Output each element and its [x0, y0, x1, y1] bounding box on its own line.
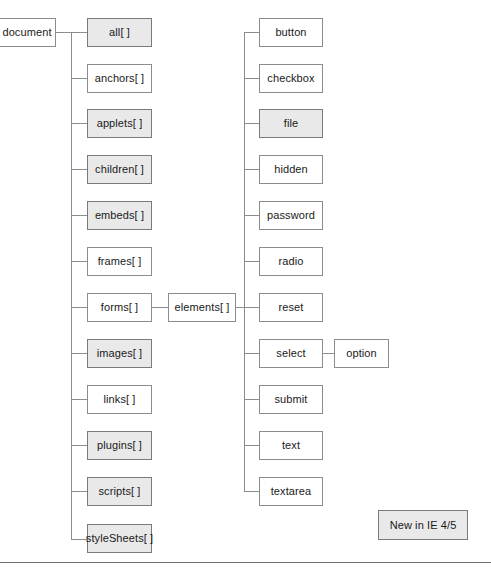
connector-stub-collection-4 [71, 215, 87, 216]
connector-stub-element-6 [244, 307, 259, 308]
legend-label: New in IE 4/5 [390, 520, 457, 531]
node-label: images[ ] [97, 348, 143, 359]
node-images[interactable]: images[ ] [87, 339, 152, 368]
connector-forms-to-elements [152, 307, 168, 308]
connector-stub-element-7 [244, 353, 259, 354]
connector-stub-collection-8 [71, 399, 87, 400]
node-all[interactable]: all[ ] [87, 18, 152, 47]
node-password[interactable]: password [259, 201, 323, 230]
node-forms[interactable]: forms[ ] [87, 293, 152, 322]
connector-stub-collection-11 [71, 539, 87, 540]
connector-select-to-option [322, 353, 334, 354]
node-label: anchors[ ] [95, 73, 144, 84]
node-label: hidden [274, 164, 308, 175]
node-label: file [284, 118, 298, 129]
node-submit[interactable]: submit [259, 385, 323, 414]
connector-stub-element-9 [244, 445, 259, 446]
node-frames[interactable]: frames[ ] [87, 247, 152, 276]
node-label: frames[ ] [98, 256, 142, 267]
node-text[interactable]: text [259, 431, 323, 460]
connector-stub-element-10 [244, 491, 259, 492]
node-label: plugins[ ] [97, 440, 142, 451]
legend-new-in-ie: New in IE 4/5 [378, 510, 468, 540]
node-scripts[interactable]: scripts[ ] [87, 477, 152, 506]
connector-stub-element-2 [244, 123, 259, 124]
node-label: reset [279, 302, 304, 313]
node-label: checkbox [267, 73, 314, 84]
node-label: scripts[ ] [99, 486, 141, 497]
node-select[interactable]: select [259, 339, 323, 368]
node-label: children[ ] [95, 164, 144, 175]
node-label: forms[ ] [101, 302, 138, 313]
node-children[interactable]: children[ ] [87, 155, 152, 184]
node-radio[interactable]: radio [259, 247, 323, 276]
connector-stub-collection-5 [71, 261, 87, 262]
connector-stub-collection-7 [71, 353, 87, 354]
node-label: select [276, 348, 305, 359]
connector-root-stub [55, 32, 72, 33]
connector-stub-element-1 [244, 78, 259, 79]
node-label: radio [279, 256, 304, 267]
connector-stub-element-8 [244, 399, 259, 400]
bottom-divider [0, 562, 491, 563]
node-label: text [282, 440, 300, 451]
connector-stub-collection-1 [71, 78, 87, 79]
node-reset[interactable]: reset [259, 293, 323, 322]
node-embeds[interactable]: embeds[ ] [87, 201, 152, 230]
node-stylesheets[interactable]: styleSheets[ ] [87, 524, 152, 553]
node-label: styleSheets[ ] [86, 533, 153, 544]
diagram-canvas: document all[ ] anchors[ ] applets[ ] ch… [0, 0, 491, 569]
node-label: links[ ] [104, 394, 136, 405]
node-label: elements[ ] [175, 302, 230, 313]
connector-stub-collection-10 [71, 491, 87, 492]
node-plugins[interactable]: plugins[ ] [87, 431, 152, 460]
connector-stub-collection-3 [71, 169, 87, 170]
node-label: password [267, 210, 315, 221]
connector-stub-element-0 [244, 32, 259, 33]
node-option[interactable]: option [334, 339, 389, 368]
node-checkbox[interactable]: checkbox [259, 64, 323, 93]
connector-stub-collection-0 [71, 32, 87, 33]
connector-stub-collection-6 [71, 307, 87, 308]
connector-stub-collection-9 [71, 445, 87, 446]
connector-stub-element-4 [244, 215, 259, 216]
connector-trunk-collections [71, 32, 72, 539]
node-label: submit [275, 394, 308, 405]
node-label: document [2, 27, 51, 38]
node-label: applets[ ] [97, 118, 143, 129]
connector-stub-element-3 [244, 169, 259, 170]
node-elements[interactable]: elements[ ] [168, 293, 236, 322]
node-label: option [346, 348, 377, 359]
node-document[interactable]: document [0, 18, 56, 47]
node-label: textarea [271, 486, 312, 497]
node-file[interactable]: file [259, 109, 323, 138]
node-label: all[ ] [109, 27, 130, 38]
connector-stub-element-5 [244, 261, 259, 262]
node-links[interactable]: links[ ] [87, 385, 152, 414]
node-label: button [275, 27, 306, 38]
connector-stub-collection-2 [71, 123, 87, 124]
node-applets[interactable]: applets[ ] [87, 109, 152, 138]
node-textarea[interactable]: textarea [259, 477, 323, 506]
node-label: embeds[ ] [95, 210, 144, 221]
node-button[interactable]: button [259, 18, 323, 47]
node-hidden[interactable]: hidden [259, 155, 323, 184]
node-anchors[interactable]: anchors[ ] [87, 64, 152, 93]
